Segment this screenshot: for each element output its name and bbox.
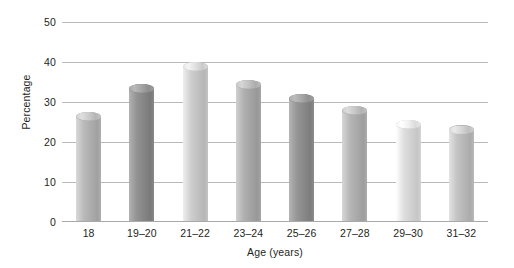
y-tick-label-10: 10 xyxy=(44,177,56,188)
bar-body xyxy=(289,98,314,221)
gridline-50 xyxy=(62,22,488,23)
y-tick-label-0: 0 xyxy=(50,217,56,228)
x-tick-label-2: 19–20 xyxy=(115,228,168,239)
y-tick-label-30: 30 xyxy=(44,97,56,108)
bar-body xyxy=(183,66,208,221)
x-tick-label-5: 25–26 xyxy=(275,228,328,239)
bar-cap xyxy=(76,112,101,121)
bar-column xyxy=(342,106,367,221)
x-tick-label-8: 31–32 xyxy=(435,228,488,239)
x-tick-label-3: 21–22 xyxy=(169,228,222,239)
bar-cap xyxy=(183,62,208,71)
bar-1[interactable] xyxy=(76,112,101,221)
gridline-20 xyxy=(62,142,488,143)
bar-8[interactable] xyxy=(449,125,474,221)
bar-column xyxy=(289,94,314,221)
gridline-10 xyxy=(62,182,488,183)
bar-cap xyxy=(342,106,367,115)
bar-cap xyxy=(129,84,154,93)
bar-column xyxy=(76,112,101,221)
bar-cap xyxy=(396,120,421,129)
bar-column xyxy=(449,125,474,221)
x-tick-label-6: 27–28 xyxy=(328,228,381,239)
bar-5[interactable] xyxy=(289,94,314,221)
x-axis-title: Age (years) xyxy=(62,246,488,258)
bar-7[interactable] xyxy=(396,120,421,221)
y-tick-label-50: 50 xyxy=(44,17,56,28)
bar-6[interactable] xyxy=(342,106,367,221)
bar-body xyxy=(76,116,101,221)
x-tick-label-7: 29–30 xyxy=(382,228,435,239)
bar-body xyxy=(342,110,367,221)
x-tick-label-1: 18 xyxy=(62,228,115,239)
gridline-0-baseline xyxy=(62,221,488,222)
gridline-30 xyxy=(62,102,488,103)
bar-cap xyxy=(236,80,261,89)
bar-body xyxy=(236,84,261,221)
bar-column xyxy=(183,62,208,221)
bar-column xyxy=(396,120,421,221)
y-axis-tick-labels: 50 40 30 20 10 0 xyxy=(36,0,56,268)
bar-body xyxy=(396,124,421,221)
bar-2[interactable] xyxy=(129,84,154,221)
bar-column xyxy=(236,80,261,221)
bar-cap xyxy=(289,94,314,103)
y-axis-title: Percentage xyxy=(20,52,32,152)
gridline-40 xyxy=(62,62,488,63)
y-tick-label-20: 20 xyxy=(44,137,56,148)
bar-column xyxy=(129,84,154,221)
y-tick-label-40: 40 xyxy=(44,57,56,68)
bar-body xyxy=(129,88,154,221)
plot-area xyxy=(62,22,488,222)
bar-3[interactable] xyxy=(183,62,208,221)
bar-4[interactable] xyxy=(236,80,261,221)
x-tick-label-4: 23–24 xyxy=(222,228,275,239)
bar-chart: 50 40 30 20 10 0 Percentage 1819–2021–22… xyxy=(0,0,514,268)
bar-body xyxy=(449,129,474,221)
